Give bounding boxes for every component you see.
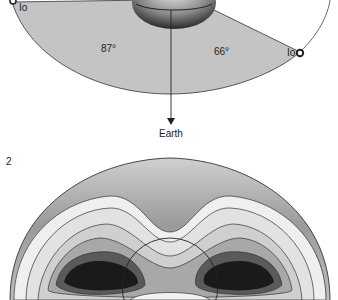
angle-label-right: 66° [214, 47, 229, 57]
earth-label: Earth [159, 129, 183, 139]
io-moon-left [10, 0, 16, 4]
contour-diagram [0, 150, 338, 300]
figure-canvas [0, 0, 338, 300]
arrow-head-icon [167, 118, 175, 125]
angle-label-left: 87° [101, 44, 116, 54]
panel-number-2: 2 [6, 157, 12, 167]
orbit-arc [300, 0, 330, 52]
io-moon-right [297, 50, 303, 56]
io-label-right: Io [287, 48, 295, 58]
io-label-left: Io [19, 3, 27, 13]
orbit-diagram [10, 0, 330, 125]
